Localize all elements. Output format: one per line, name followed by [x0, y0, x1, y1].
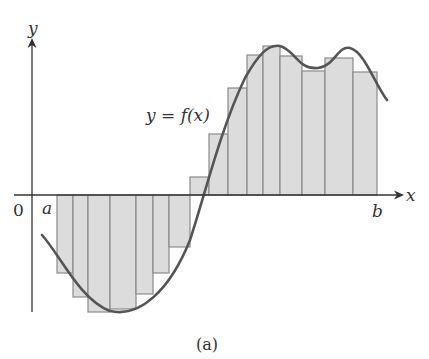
- riemann-rectangle: [169, 195, 190, 247]
- riemann-rectangle: [247, 55, 263, 195]
- riemann-rectangle: [57, 195, 73, 273]
- riemann-rectangle: [353, 72, 377, 195]
- riemann-rectangle: [302, 71, 325, 195]
- riemann-rectangle: [110, 195, 136, 309]
- riemann-rectangle: [228, 88, 247, 195]
- riemann-sum-figure: y x 0 a b y = f(x) (a): [0, 0, 429, 359]
- riemann-rectangle: [88, 195, 110, 312]
- y-axis-label: y: [27, 18, 38, 38]
- riemann-rectangle: [280, 56, 302, 195]
- figure-caption: (a): [196, 335, 218, 354]
- riemann-rectangles: [57, 46, 377, 312]
- riemann-rectangle: [325, 58, 353, 195]
- origin-label: 0: [13, 200, 24, 220]
- left-endpoint-label: a: [42, 198, 52, 218]
- right-endpoint-label: b: [372, 201, 383, 221]
- curve-label: y = f(x): [145, 105, 210, 125]
- riemann-rectangle: [263, 46, 280, 195]
- x-axis-label: x: [406, 185, 416, 205]
- riemann-rectangle: [136, 195, 153, 294]
- riemann-rectangle: [153, 195, 169, 273]
